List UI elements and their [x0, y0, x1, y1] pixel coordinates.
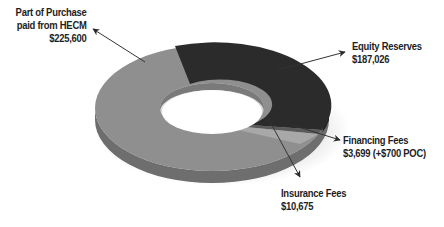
label-purchase-line1: Part of Purchase: [16, 6, 87, 19]
label-equity-line1: Equity Reserves: [352, 40, 422, 53]
donut-hole: [162, 90, 262, 134]
label-financing-value: $3,699 (+$700 POC): [343, 147, 426, 160]
label-financing-line1: Financing Fees: [343, 134, 426, 147]
label-purchase-value: $225,600: [16, 32, 87, 45]
label-equity: Equity Reserves $187,026: [352, 40, 422, 66]
label-purchase-line2: paid from HECM: [16, 19, 87, 32]
label-purchase: Part of Purchase paid from HECM $225,600: [16, 6, 87, 45]
label-insurance-value: $10,675: [281, 200, 346, 213]
label-equity-value: $187,026: [352, 53, 422, 66]
label-financing: Financing Fees $3,699 (+$700 POC): [343, 134, 426, 160]
label-insurance-line1: Insurance Fees: [281, 187, 346, 200]
arrow-purchase: [93, 29, 145, 62]
label-insurance: Insurance Fees $10,675: [281, 187, 346, 213]
